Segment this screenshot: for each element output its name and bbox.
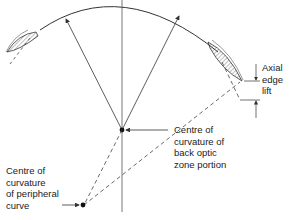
back-optic-zone-arc [40,7,218,52]
label-centre-back-optic: Centre of curvature of back optic zone p… [174,124,226,170]
lens-edge-left [7,32,38,52]
label-line: curvature [6,177,59,189]
diagram-canvas: Axial edge lift Centre of curvature of b… [0,0,290,220]
lens-edge-right [208,42,242,81]
label-line: curve [6,200,59,212]
label-line: back optic [174,147,226,159]
radius-line-right [122,16,179,130]
label-line: lift [262,85,283,97]
label-centre-peripheral: Centre of curvature of peripheral curve [6,165,59,211]
centre-peripheral-point [81,203,86,208]
label-line: zone portion [174,159,226,171]
label-line: curvature of [174,136,226,148]
radius-line-left [66,19,122,130]
label-line: Centre of [174,124,226,136]
label-line: Axial [262,62,283,74]
label-axial-edge-lift: Axial edge lift [262,62,283,97]
label-line: of peripheral [6,188,59,200]
label-line: Centre of [6,165,59,177]
label-line: edge [262,74,283,86]
dashed-radius-back-optic [84,130,122,205]
